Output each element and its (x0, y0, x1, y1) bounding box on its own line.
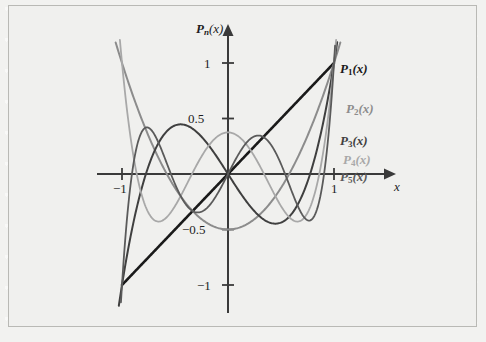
y-tick-label-neg1: −1 (197, 279, 211, 292)
y-tick-label-1: 1 (204, 57, 211, 70)
y-axis-arrow (223, 24, 234, 36)
x-axis-label: x (394, 180, 400, 193)
curve-label-p5: P5(x) (340, 170, 368, 185)
y-tick-label-0_5: 0.5 (188, 112, 204, 125)
x-tick-label-1: 1 (331, 182, 338, 195)
figure-page: Pn(x) x 1 0.5 −0.5 −1 −1 1 P1(x) P2(x) P… (0, 0, 486, 342)
x-tick-label-neg1: −1 (113, 182, 127, 195)
y-tick-label-neg0_5: −0.5 (182, 223, 206, 236)
y-axis-label: Pn(x) (196, 22, 223, 37)
curve-label-p1: P1(x) (340, 62, 368, 77)
curve-label-p3: P3(x) (340, 134, 368, 149)
curve-label-p2: P2(x) (346, 102, 374, 117)
x-axis-arrow (384, 169, 396, 180)
curve-label-p4: P4(x) (343, 153, 371, 168)
legendre-plot-svg (0, 0, 486, 342)
